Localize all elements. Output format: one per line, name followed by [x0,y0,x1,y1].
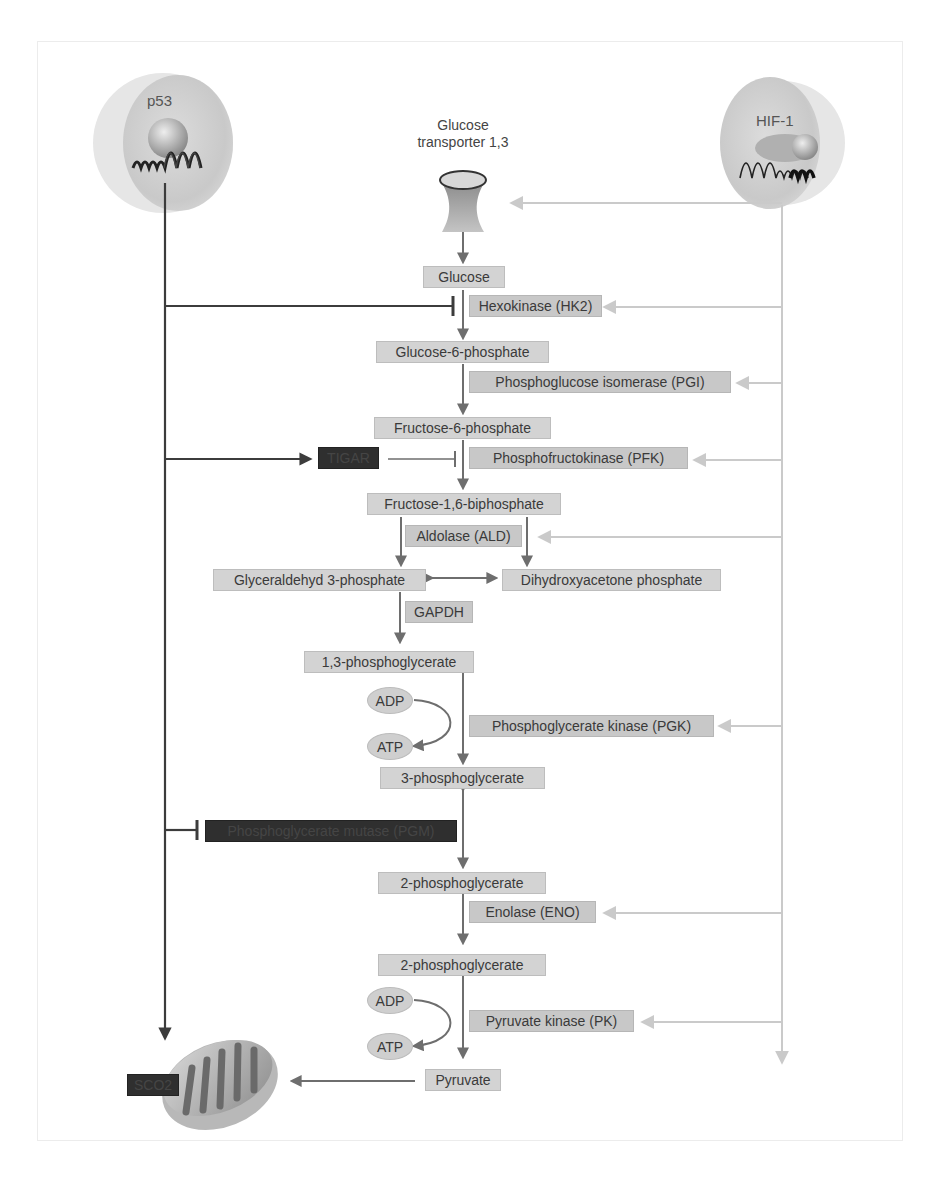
transporter-label-line1: Glucose [403,117,523,134]
metabolite-2-phosphoglycerate-2: 2-phosphoglycerate [378,954,546,976]
metabolite-fructose-6-phosphate: Fructose-6-phosphate [374,417,551,439]
enzyme-gapdh: GAPDH [405,601,473,623]
metabolite-1-3-phosphoglycerate: 1,3-phosphoglycerate [304,651,474,673]
enzyme-phosphoglycerate-mutase: Phosphoglycerate mutase (PGM) [205,820,457,842]
cofactor-adp-2: ADP [367,987,413,1014]
enzyme-aldolase: Aldolase (ALD) [405,525,522,547]
metabolite-dihydroxyacetone-phosphate: Dihydroxyacetone phosphate [502,569,721,591]
cofactor-atp-2: ATP [367,1033,413,1060]
cofactor-adp-1: ADP [367,687,413,714]
metabolite-glyceraldehyde-3-phosphate: Glyceraldehyd 3-phosphate [213,569,426,591]
p53-target-sco2: SCO2 [127,1074,179,1096]
metabolite-2-phosphoglycerate-1: 2-phosphoglycerate [378,872,546,894]
enzyme-phosphoglycerate-kinase: Phosphoglycerate kinase (PGK) [469,715,714,737]
enzyme-phosphoglucose-isomerase: Phosphoglucose isomerase (PGI) [469,371,731,393]
metabolite-glucose-6-phosphate: Glucose-6-phosphate [376,341,549,363]
cofactor-atp-1: ATP [367,733,413,760]
transporter-label-line2: transporter 1,3 [403,134,523,151]
p53-label: p53 [147,92,172,109]
glucose-transporter-icon [440,171,486,232]
metabolite-fructose-1-6-biphosphate: Fructose-1,6-biphosphate [367,493,561,515]
enzyme-enolase: Enolase (ENO) [469,901,596,923]
metabolite-3-phosphoglycerate: 3-phosphoglycerate [380,767,545,789]
enzyme-hexokinase: Hexokinase (HK2) [469,295,602,317]
metabolite-pyruvate: Pyruvate [425,1069,501,1091]
enzyme-phosphofructokinase: Phosphofructokinase (PFK) [469,447,688,469]
p53-target-tigar: TIGAR [318,447,379,469]
hif1-label: HIF-1 [756,112,794,129]
enzyme-pyruvate-kinase: Pyruvate kinase (PK) [469,1010,634,1032]
metabolite-glucose: Glucose [423,266,505,288]
hif1-nucleus-icon [720,77,845,209]
transporter-label: Glucose transporter 1,3 [403,117,523,151]
